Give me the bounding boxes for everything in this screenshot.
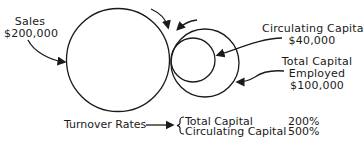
sales-arrow-icon xyxy=(28,40,64,62)
turnover-row-circulating-name: Circulating Capital xyxy=(185,126,286,137)
turnover-title: Turnover Rates xyxy=(64,119,146,130)
total-value: $100,000 xyxy=(272,80,362,92)
total-capital-label: Total Capital Employed $100,000 xyxy=(272,56,362,92)
capital-turnover-diagram: Sales $200,000 Circulating Capital $40,0… xyxy=(0,0,363,142)
rotation-arrow-icon xyxy=(151,9,168,27)
sales-circle xyxy=(67,9,170,112)
sales-value: $200,000 xyxy=(4,28,56,40)
total-capital-circle xyxy=(171,29,239,97)
circulating-capital-label: Circulating Capital $40,000 xyxy=(262,23,362,47)
sales-label: Sales $200,000 xyxy=(4,16,56,40)
circulating-capital-circle xyxy=(171,38,215,82)
rotation-arrow-icon xyxy=(178,20,197,29)
circulating-value: $40,000 xyxy=(262,35,362,47)
brace-icon xyxy=(177,117,184,134)
turnover-row-circulating-rate: 500% xyxy=(288,126,319,137)
